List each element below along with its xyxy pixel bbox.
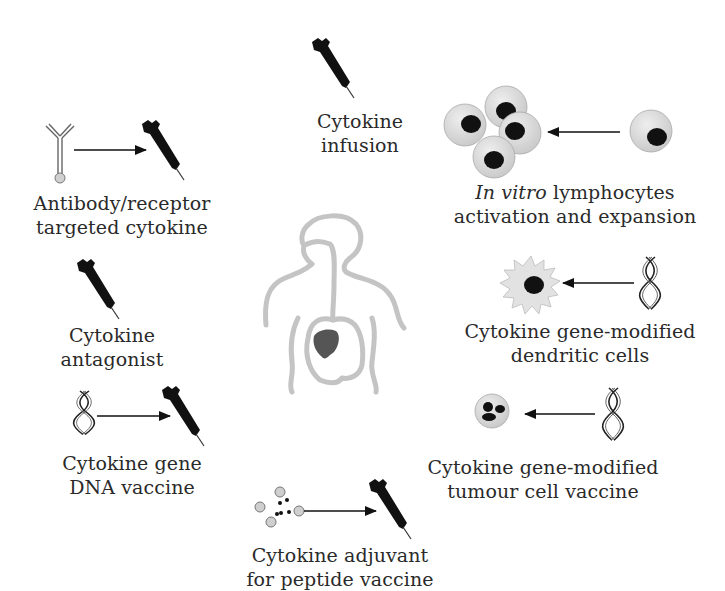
syringe-icon: [312, 38, 354, 98]
peptide-icon: [255, 487, 304, 527]
label-gene-modified-tumour-cell-vaccine: Cytokine gene-modified tumour cell vacci…: [418, 455, 668, 503]
tumour-cell-icon: [475, 394, 509, 428]
diagram-canvas: Cytokine infusion Antibody/receptor targ…: [0, 0, 725, 591]
label-cytokine-antagonist: Cytokine antagonist: [52, 323, 172, 371]
label-in-vitro-lymphocytes: In vitro lymphocytes activation and expa…: [445, 180, 705, 228]
dendritic-cell-icon: [500, 256, 560, 314]
lymphocyte-icon: [630, 110, 672, 152]
syringe-icon: [369, 479, 411, 539]
tumour-icon: [313, 330, 338, 359]
dna-icon: [74, 391, 95, 435]
syringe-icon: [77, 259, 119, 319]
label-cytokine-gene-dna-vaccine: Cytokine gene DNA vaccine: [52, 451, 212, 499]
label-cytokine-infusion: Cytokine infusion: [290, 109, 430, 157]
dna-icon: [603, 388, 624, 440]
label-italic-in-vitro: In vitro: [475, 181, 547, 203]
label-cytokine-adjuvant-peptide-vaccine: Cytokine adjuvant for peptide vaccine: [240, 543, 440, 591]
label-antibody-receptor-targeted-cytokine: Antibody/receptor targeted cytokine: [22, 191, 222, 239]
syringe-icon: [142, 120, 184, 180]
label-gene-modified-dendritic-cells: Cytokine gene-modified dendritic cells: [455, 319, 705, 367]
dna-icon: [640, 257, 661, 309]
antibody-icon: [46, 124, 74, 183]
human-torso-with-tumour-icon: [266, 216, 404, 392]
lymphocyte-cluster-icon: [444, 86, 541, 178]
